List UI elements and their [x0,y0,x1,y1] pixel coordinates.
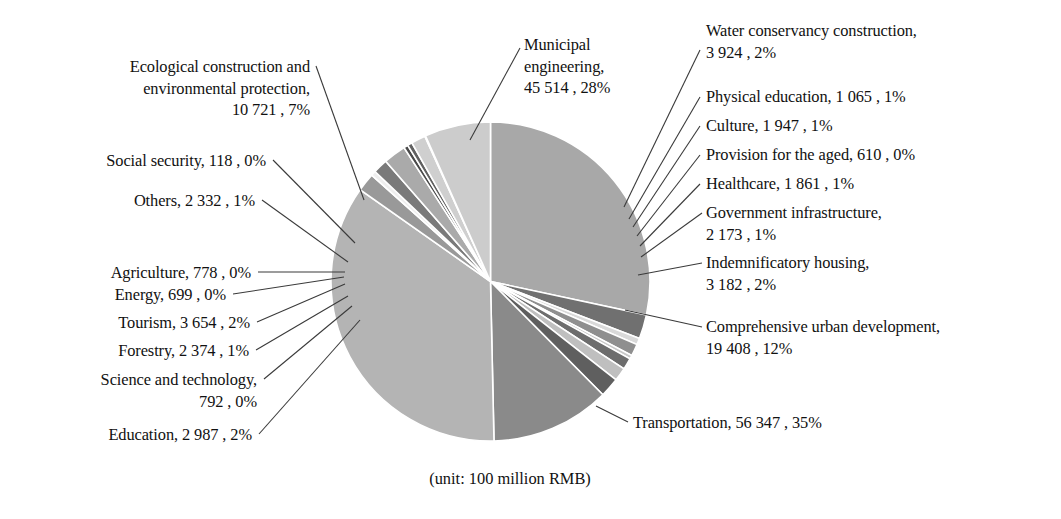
chart-unit-caption: (unit: 100 million RMB) [370,468,650,489]
leader-line-forestry [256,296,348,350]
slice-label-others: Others, 2 332 , 1% [10,190,255,212]
slice-label-municipal-engineering: Municipal engineering, 45 514 , 28% [524,34,714,99]
leader-line-ecological-construction [316,66,364,200]
pie-slices-group [331,122,650,441]
leader-line-transportation [596,406,628,422]
leader-line-social-security [273,160,355,243]
slice-label-energy: Energy, 699 , 0% [10,284,226,306]
slice-label-culture: Culture, 1 947 , 1% [706,115,1058,137]
slice-label-education: Education, 2 987 , 2% [10,424,252,446]
leader-line-others [262,200,348,262]
slice-label-ecological-construction-and-environmental-protection: Ecological construction and environmenta… [10,56,310,121]
slice-label-tourism: Tourism, 3 654 , 2% [10,312,250,334]
leader-line-education [259,320,360,434]
slice-label-provision-for-the-aged: Provision for the aged, 610 , 0% [706,144,1058,166]
slice-label-science-and-technology: Science and technology, 792 , 0% [10,369,257,412]
slice-label-healthcare: Healthcare, 1 861 , 1% [706,173,1058,195]
slice-label-indemnificatory-housing: Indemnificatory housing, 3 182 , 2% [706,252,1058,295]
slice-label-social-security: Social security, 118 , 0% [10,150,266,172]
slice-label-agriculture: Agriculture, 778 , 0% [10,262,251,284]
pie-chart-figure: Water conservancy construction, 3 924 , … [0,0,1061,519]
leader-line-culture [633,126,700,227]
slice-label-forestry: Forestry, 2 374 , 1% [10,340,249,362]
leader-line-provision-aged [637,155,700,236]
slice-label-water-conservancy-construction: Water conservancy construction, 3 924 , … [706,20,1058,63]
slice-label-government-infrastructure: Government infrastructure, 2 173 , 1% [706,202,1058,245]
slice-label-physical-education: Physical education, 1 065 , 1% [706,86,1058,108]
slice-label-comprehensive-urban-development: Comprehensive urban development, 19 408 … [706,316,1058,359]
slice-label-transportation: Transportation, 56 347 , 35% [633,412,1033,434]
leader-line-science-technology [264,306,352,379]
